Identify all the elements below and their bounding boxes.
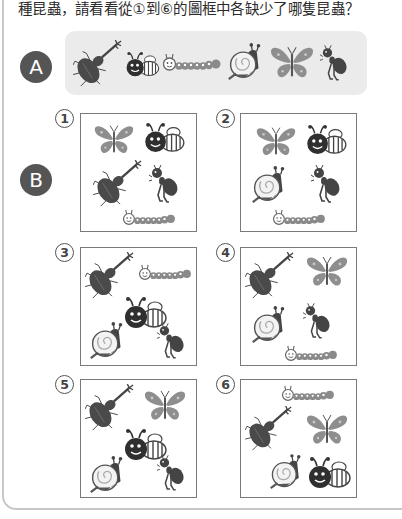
snail-icon <box>251 164 287 206</box>
section-b-label: B <box>29 168 43 192</box>
snail-icon <box>251 304 287 346</box>
frame-4[interactable] <box>240 247 357 366</box>
frame-4-number: 4 <box>216 243 235 262</box>
section-a-badge: A <box>20 51 52 83</box>
bee-icon <box>125 51 161 78</box>
snail-icon <box>269 452 303 492</box>
butterfly-icon <box>305 412 349 448</box>
beetle-icon <box>73 40 125 88</box>
frame-2-number: 2 <box>216 109 235 128</box>
frame-5[interactable] <box>80 379 197 498</box>
frame-3-number: 3 <box>55 243 74 262</box>
caterpillar-icon <box>123 209 179 227</box>
snail-icon <box>89 320 125 362</box>
caterpillar-icon <box>139 264 195 282</box>
bee-icon <box>143 122 187 154</box>
beetle-icon <box>85 252 137 300</box>
beetle-icon <box>93 160 145 208</box>
beetle-icon <box>245 406 295 452</box>
beetle-icon <box>85 384 137 432</box>
butterfly-icon <box>143 388 187 424</box>
frame-3[interactable] <box>80 247 197 366</box>
ant-icon <box>157 454 185 494</box>
ant-icon <box>157 322 185 362</box>
ant-icon <box>303 302 331 342</box>
frame-6[interactable] <box>240 379 357 498</box>
caterpillar-icon <box>281 385 339 403</box>
frame-1[interactable] <box>80 113 197 232</box>
frame-1-number: 1 <box>55 109 74 128</box>
bee-icon <box>307 456 353 490</box>
butterfly-icon <box>269 44 315 82</box>
section-a-panel <box>65 31 367 95</box>
snail-icon <box>227 41 263 83</box>
frame-2[interactable] <box>240 113 357 232</box>
ant-icon <box>311 164 341 206</box>
section-b-badge: B <box>20 164 52 196</box>
bee-icon <box>305 124 349 156</box>
snail-icon <box>89 454 125 496</box>
section-a-label: A <box>29 55 43 79</box>
caterpillar-icon <box>285 345 341 363</box>
butterfly-icon <box>93 123 135 157</box>
instruction-text: 種昆蟲，請看看從①到⑥的圖框中各缺少了哪隻昆蟲？ <box>18 0 359 18</box>
caterpillar-icon <box>163 53 225 73</box>
ant-icon <box>320 43 348 85</box>
frame-5-number: 5 <box>55 375 74 394</box>
ant-icon <box>149 164 179 206</box>
frame-6-number: 6 <box>216 375 235 394</box>
beetle-icon <box>245 252 297 300</box>
caterpillar-icon <box>273 209 329 227</box>
butterfly-icon <box>255 125 297 159</box>
butterfly-icon <box>305 254 349 290</box>
